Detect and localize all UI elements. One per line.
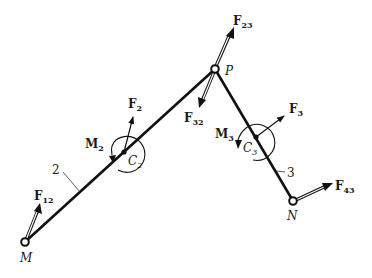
center-C3-dot [253, 134, 258, 139]
point-P-label: P [224, 64, 234, 78]
point-N-label: N [286, 209, 298, 223]
link-3-leader [276, 171, 285, 172]
moment-M3-arrowhead [235, 140, 242, 149]
mechanism-diagram: 2 3 F12 F23 F32 F43 F2 F3 M2 M3 C2 [0, 0, 372, 278]
center-C3-label: C3 [243, 141, 257, 157]
link-3-label: 3 [287, 166, 295, 180]
joint-M [21, 238, 29, 246]
force-F43-arrow [296, 183, 333, 200]
link-2-leader [63, 172, 80, 192]
force-F23-arrow [216, 27, 234, 66]
point-M-label: M [19, 251, 33, 265]
force-F12-label: F12 [34, 189, 54, 205]
force-F23-label: F23 [233, 14, 253, 30]
force-F3-arrow [256, 116, 284, 137]
link-2-label: 2 [52, 163, 60, 177]
force-F3-label: F3 [289, 102, 304, 118]
moment-M2-label: M2 [85, 137, 104, 153]
joint-N [289, 197, 297, 205]
force-F43-label: F43 [335, 179, 355, 195]
force-F2-label: F2 [128, 97, 142, 113]
link-2 [25, 69, 215, 242]
force-F32-label: F32 [184, 111, 204, 127]
center-C2-dot [121, 149, 126, 154]
center-C2-label: C2 [128, 154, 142, 170]
moment-M3-label: M3 [215, 127, 234, 143]
joint-P [211, 65, 219, 73]
